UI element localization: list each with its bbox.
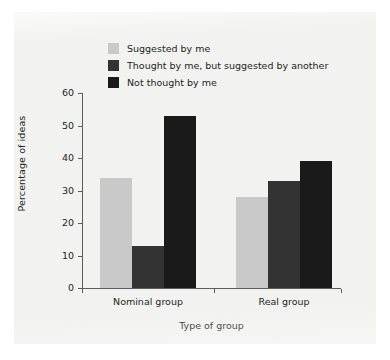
x-axis-line [82,288,341,289]
x-axis-title: Type of group [82,320,341,331]
y-tick-label: 50 [48,121,74,131]
y-tick-label-text: 30 [48,186,74,196]
y-tick-mark [78,158,82,159]
y-tick-label: 10 [48,251,74,261]
bar [132,246,164,288]
bar [268,181,300,288]
x-tick-label: Nominal group [88,296,208,307]
x-tick-mark [341,289,342,293]
chart-legend: Suggested by meThought by me, but sugges… [108,41,348,92]
x-tick-mark [214,289,215,293]
bar [100,178,132,289]
legend-item-label: Not thought by me [127,77,217,88]
y-axis-title: Percentage of ideas [16,99,27,229]
y-tick-label-text: 60 [48,88,74,98]
y-tick-mark [78,223,82,224]
y-tick-label: 20 [48,218,74,228]
y-axis-line [82,93,83,289]
legend-swatch-icon [108,43,119,54]
y-tick-label-text: 10 [48,251,74,261]
y-tick-mark [78,256,82,257]
legend-item: Not thought by me [108,75,348,90]
y-tick-label-text: 40 [48,153,74,163]
bar [164,116,196,288]
y-tick-mark [78,93,82,94]
x-tick-mark [82,289,83,293]
y-tick-label: 30 [48,186,74,196]
legend-item-label: Thought by me, but suggested by another [127,60,328,71]
y-tick-label: 40 [48,153,74,163]
legend-item-label: Suggested by me [127,43,210,54]
x-tick-label: Real group [224,296,344,307]
bar [236,197,268,288]
y-tick-label: 0 [48,283,74,293]
legend-swatch-icon [108,60,119,71]
y-tick-mark [78,191,82,192]
figure-page: 0102030405060 Percentage of ideas Nomina… [0,0,390,360]
y-tick-label-text: 20 [48,218,74,228]
bar-chart: 0102030405060 Percentage of ideas Nomina… [0,0,390,360]
y-tick-label-text: 50 [48,121,74,131]
legend-swatch-icon [108,77,119,88]
y-tick-label-text: 0 [48,283,74,293]
y-tick-label: 60 [48,88,74,98]
legend-item: Suggested by me [108,41,348,56]
y-tick-mark [78,126,82,127]
legend-item: Thought by me, but suggested by another [108,58,348,73]
bar [300,161,332,288]
